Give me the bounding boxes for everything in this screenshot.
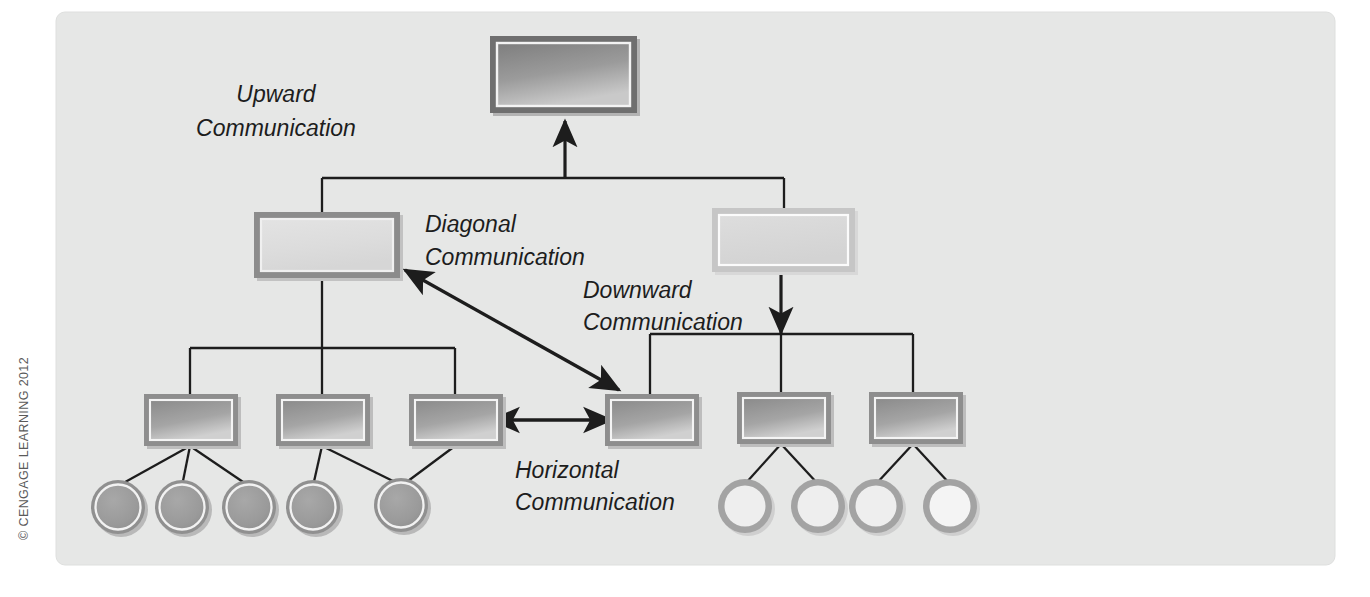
supervisor-box-1[interactable] [144,394,241,449]
left-manager-box[interactable] [254,212,403,281]
copyright-text: © CENGAGE LEARNING 2012 [17,357,31,540]
executive-box[interactable] [490,36,640,116]
label-downward-line2: Communication [583,309,743,335]
label-diagonal-line2: Communication [425,244,585,270]
label-horizontal-line2: Communication [515,489,675,515]
label-horizontal-line1: Horizontal [515,457,619,483]
label-upward-line1: Upward [236,81,316,107]
supervisor-box-6[interactable] [869,392,966,447]
communication-flow-figure: Upward Communication Diagonal Communicat… [0,0,1370,597]
supervisor-box-2[interactable] [276,394,373,449]
label-upward-line2: Communication [196,115,356,141]
org-communication-diagram: Upward Communication Diagonal Communicat… [0,0,1370,597]
copyright-notice: © CENGAGE LEARNING 2012 [17,357,31,540]
supervisor-box-3[interactable] [409,394,506,449]
label-diagonal-line1: Diagonal [425,211,517,237]
label-downward-line1: Downward [583,277,693,303]
supervisor-box-5[interactable] [737,392,834,447]
right-manager-box[interactable] [712,208,858,275]
supervisor-box-4[interactable] [605,394,702,449]
